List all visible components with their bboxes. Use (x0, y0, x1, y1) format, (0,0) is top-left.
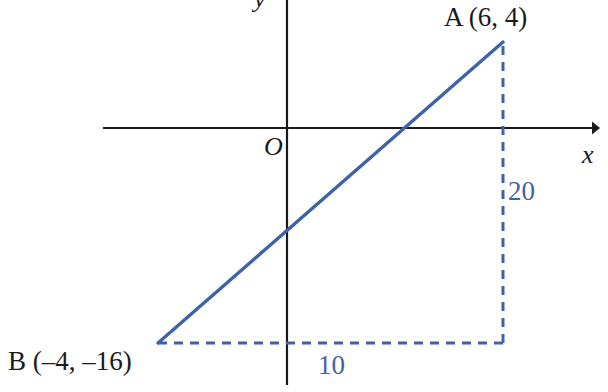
y-axis-label: y (254, 0, 266, 12)
x-axis (103, 122, 600, 135)
x-axis-arrowhead (592, 122, 600, 135)
line-segment-ab (158, 42, 503, 343)
origin-label: O (264, 134, 283, 160)
point-b-label: B (–4, –16) (8, 348, 132, 375)
x-axis-label: x (582, 142, 594, 168)
coordinate-plane-figure: A (6, 4) B (–4, –16) O x y 20 10 (0, 0, 608, 392)
rise-measure-label: 20 (508, 178, 535, 205)
point-a-label: A (6, 4) (444, 4, 527, 31)
run-measure-label: 10 (318, 352, 345, 379)
